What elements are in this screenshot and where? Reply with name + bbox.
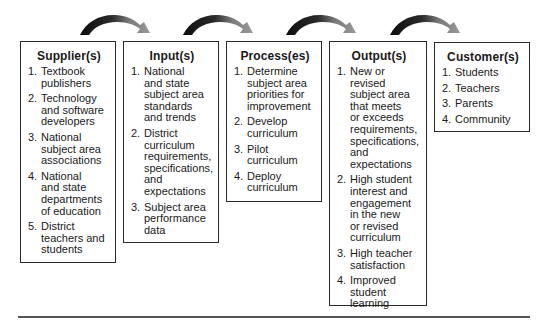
list-item: 3.Subject area performance data xyxy=(130,202,214,237)
arrow-input-to-process xyxy=(183,15,253,35)
list-item: 1.Textbook publishers xyxy=(27,66,111,89)
customer-box: Customer(s) 1.Students 2.Teachers 3.Pare… xyxy=(434,42,530,132)
arrow-output-to-customer xyxy=(390,15,460,35)
input-title: Input(s) xyxy=(130,49,214,63)
bottom-divider xyxy=(18,316,530,318)
list-item: 4.Improved student learning xyxy=(336,275,422,310)
list-item: 4.Community xyxy=(441,114,525,126)
list-item: 2.Technology and software developers xyxy=(27,93,111,128)
supplier-box: Supplier(s) 1.Textbook publishers 2.Tech… xyxy=(20,41,116,263)
process-list: 1.Determine subject area priorities for … xyxy=(233,66,317,194)
list-item: 2.Teachers xyxy=(441,83,525,95)
supplier-list: 1.Textbook publishers 2.Technology and s… xyxy=(27,66,111,256)
list-item: 1.National and state subject area standa… xyxy=(130,66,214,124)
customer-title: Customer(s) xyxy=(441,50,525,64)
process-box: Process(es) 1.Determine subject area pri… xyxy=(226,41,322,202)
list-item: 2.Develop curriculum xyxy=(233,116,317,139)
flow-arrows xyxy=(0,0,544,45)
list-item: 3.High teacher satisfaction xyxy=(336,248,422,271)
list-item: 2.District curriculum requirements, spec… xyxy=(130,128,214,198)
list-item: 4.National and state departments of educ… xyxy=(27,171,111,217)
list-item: 3.National subject area associations xyxy=(27,132,111,167)
input-list: 1.National and state subject area standa… xyxy=(130,66,214,236)
list-item: 4.Deploy curriculum xyxy=(233,171,317,194)
list-item: 1.Students xyxy=(441,67,525,79)
process-title: Process(es) xyxy=(233,49,317,63)
list-item: 3.Parents xyxy=(441,98,525,110)
supplier-title: Supplier(s) xyxy=(27,49,111,63)
arrow-supplier-to-input xyxy=(80,15,150,35)
output-list: 1.New or revised subject area that meets… xyxy=(336,66,422,310)
list-item: 3.Pilot curriculum xyxy=(233,144,317,167)
input-box: Input(s) 1.National and state subject ar… xyxy=(123,41,219,243)
list-item: 1.Determine subject area priorities for … xyxy=(233,66,317,112)
arrow-process-to-output xyxy=(286,15,356,35)
output-title: Output(s) xyxy=(336,49,422,63)
list-item: 2.High student interest and engagement i… xyxy=(336,174,422,244)
output-box: Output(s) 1.New or revised subject area … xyxy=(329,41,427,306)
list-item: 1.New or revised subject area that meets… xyxy=(336,66,422,170)
list-item: 5.District teachers and students xyxy=(27,221,111,256)
customer-list: 1.Students 2.Teachers 3.Parents 4.Commun… xyxy=(441,67,525,125)
